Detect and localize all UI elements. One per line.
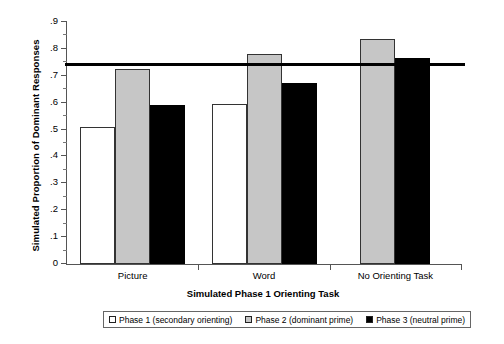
x-axis-tick bbox=[330, 264, 331, 270]
y-axis-tick-label: 0 bbox=[53, 257, 58, 268]
legend-swatch-icon-phase-2 bbox=[245, 316, 252, 323]
legend-label-phase-3: Phase 3 (neutral prime) bbox=[376, 315, 465, 325]
y-axis-tick: .6 bbox=[61, 102, 67, 103]
x-axis-tick-label: Word bbox=[253, 270, 276, 281]
bar-word-series-1 bbox=[212, 104, 247, 264]
x-axis-tick bbox=[198, 264, 199, 270]
x-axis-tick-label: Picture bbox=[118, 270, 148, 281]
y-axis-minor-tick bbox=[63, 61, 67, 62]
y-axis-minor-tick bbox=[63, 223, 67, 224]
y-axis-tick-label: .1 bbox=[50, 230, 58, 241]
y-axis-tick: .3 bbox=[61, 182, 67, 183]
y-axis-tick-label: .8 bbox=[50, 42, 58, 53]
y-axis-minor-tick bbox=[63, 196, 67, 197]
y-axis-tick-label: .5 bbox=[50, 123, 58, 134]
y-axis-minor-tick bbox=[63, 169, 67, 170]
y-axis-tick-label: .7 bbox=[50, 69, 58, 80]
legend-swatch-icon-phase-3 bbox=[366, 316, 373, 323]
reference-line bbox=[65, 63, 465, 66]
x-axis-title: Simulated Phase 1 Orienting Task bbox=[66, 288, 460, 299]
y-axis-minor-tick bbox=[63, 115, 67, 116]
legend-label-phase-1: Phase 1 (secondary orienting) bbox=[119, 315, 232, 325]
y-axis-tick: .5 bbox=[61, 129, 67, 130]
bar-no-orienting-task-series-2 bbox=[360, 39, 395, 264]
y-axis-tick-label: .4 bbox=[50, 149, 58, 160]
y-axis-tick-label: .2 bbox=[50, 203, 58, 214]
y-axis-tick: .4 bbox=[61, 155, 67, 156]
y-axis-tick: .9 bbox=[61, 21, 67, 22]
y-axis-tick-label: .9 bbox=[50, 15, 58, 26]
y-axis-tick: .8 bbox=[61, 48, 67, 49]
y-axis-tick: .7 bbox=[61, 75, 67, 76]
legend-item-phase-3: Phase 3 (neutral prime) bbox=[366, 315, 465, 325]
y-axis-tick: .2 bbox=[61, 209, 67, 210]
y-axis-tick-label: .3 bbox=[50, 176, 58, 187]
legend-item-phase-1: Phase 1 (secondary orienting) bbox=[109, 315, 232, 325]
bar-picture-series-1 bbox=[80, 127, 115, 264]
y-axis-tick: 0 bbox=[61, 263, 67, 264]
legend-label-phase-2: Phase 2 (dominant prime) bbox=[255, 315, 353, 325]
bar-picture-series-3 bbox=[150, 105, 185, 264]
chart-legend: Phase 1 (secondary orienting) Phase 2 (d… bbox=[103, 311, 471, 328]
bar-word-series-2 bbox=[247, 54, 282, 264]
bar-no-orienting-task-series-3 bbox=[395, 58, 430, 264]
bar-chart-figure: Simulated Proportion of Dominant Respons… bbox=[0, 0, 504, 344]
y-axis-tick-label: .6 bbox=[50, 96, 58, 107]
y-axis-minor-tick bbox=[63, 88, 67, 89]
y-axis-minor-tick bbox=[63, 142, 67, 143]
y-axis-tick: .1 bbox=[61, 236, 67, 237]
bar-picture-series-2 bbox=[115, 69, 150, 264]
x-axis-tick-label: No Orienting Task bbox=[358, 270, 433, 281]
y-axis-minor-tick bbox=[63, 34, 67, 35]
bar-word-series-3 bbox=[282, 83, 317, 264]
y-axis-minor-tick bbox=[63, 250, 67, 251]
legend-item-phase-2: Phase 2 (dominant prime) bbox=[245, 315, 353, 325]
x-axis-tick-end bbox=[461, 264, 462, 270]
plot-area: 0.1.2.3.4.5.6.7.8.9PictureWordNo Orienti… bbox=[66, 22, 461, 265]
legend-swatch-icon-phase-1 bbox=[109, 316, 116, 323]
y-axis-title: Simulated Proportion of Dominant Respons… bbox=[30, 16, 41, 276]
